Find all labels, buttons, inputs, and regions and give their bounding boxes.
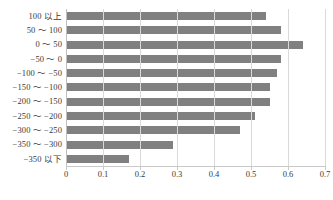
bar[interactable] xyxy=(66,83,270,91)
bar[interactable] xyxy=(66,69,277,77)
x-tick-mark xyxy=(103,166,104,170)
gridline xyxy=(103,9,104,166)
category-label: −50 ～ 0 xyxy=(0,52,62,66)
category-label: −150 ～ −100 xyxy=(0,80,62,94)
gridline xyxy=(251,9,252,166)
x-axis-tick-labels: 00.10.20.30.40.50.60.7 xyxy=(0,170,333,184)
x-tick-label: 0.6 xyxy=(283,170,294,179)
bar-row xyxy=(66,23,325,37)
gridline xyxy=(140,9,141,166)
x-tick-mark xyxy=(288,166,289,170)
bar-row xyxy=(66,152,325,166)
category-label: −100 ～ −50 xyxy=(0,66,62,80)
gridline xyxy=(325,9,326,166)
category-label: −350 ～ −300 xyxy=(0,137,62,151)
bar[interactable] xyxy=(66,41,303,49)
bar-rows xyxy=(66,9,325,166)
category-label: −250 ～ −200 xyxy=(0,109,62,123)
category-label: −300 ～ −250 xyxy=(0,123,62,137)
x-tick-label: 0.5 xyxy=(246,170,257,179)
bar-row xyxy=(66,109,325,123)
x-tick-mark xyxy=(251,166,252,170)
bar-row xyxy=(66,95,325,109)
category-label: 0 ～ 50 xyxy=(0,38,62,52)
bar[interactable] xyxy=(66,112,255,120)
bar[interactable] xyxy=(66,55,281,63)
bar[interactable] xyxy=(66,141,173,149)
bar[interactable] xyxy=(66,12,266,20)
gridline xyxy=(214,9,215,166)
bar[interactable] xyxy=(66,98,270,106)
bar[interactable] xyxy=(66,26,281,34)
figure-caption xyxy=(0,189,333,200)
category-axis-labels: 100 以上50 ～ 1000 ～ 50−50 ～ 0−100 ～ −50−15… xyxy=(0,9,62,166)
bar-row xyxy=(66,9,325,23)
category-label: −350 以下 xyxy=(0,152,62,166)
category-label: 50 ～ 100 xyxy=(0,23,62,37)
bar-row xyxy=(66,38,325,52)
bar-row xyxy=(66,80,325,94)
x-tick-label: 0.4 xyxy=(209,170,220,179)
category-label: −200 ～ −150 xyxy=(0,95,62,109)
x-tick-label: 0 xyxy=(64,170,68,179)
x-tick-label: 0.2 xyxy=(135,170,146,179)
plot-area xyxy=(66,9,325,166)
bar[interactable] xyxy=(66,155,129,163)
bar-row xyxy=(66,137,325,151)
x-tick-label: 0.1 xyxy=(98,170,109,179)
bar-chart: 100 以上50 ～ 1000 ～ 50−50 ～ 0−100 ～ −50−15… xyxy=(0,0,333,200)
x-tick-mark xyxy=(66,166,67,170)
x-tick-label: 0.7 xyxy=(320,170,331,179)
x-tick-mark xyxy=(325,166,326,170)
gridline xyxy=(177,9,178,166)
x-tick-label: 0.3 xyxy=(172,170,183,179)
gridline xyxy=(288,9,289,166)
x-axis-line xyxy=(66,166,325,167)
bar-row xyxy=(66,52,325,66)
category-label: 100 以上 xyxy=(0,9,62,23)
bar-row xyxy=(66,66,325,80)
x-tick-mark xyxy=(214,166,215,170)
x-tick-mark xyxy=(140,166,141,170)
gridline xyxy=(66,9,67,166)
x-tick-mark xyxy=(177,166,178,170)
bar-row xyxy=(66,123,325,137)
